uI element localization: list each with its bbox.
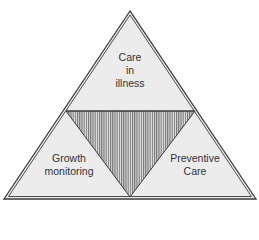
section-growth-monitoring-line-2: monitoring (38, 165, 100, 178)
section-care-in-illness-line-1: Care (104, 51, 156, 64)
section-preventive-care: Preventive Care (162, 152, 228, 178)
section-growth-monitoring-line-1: Growth (38, 152, 100, 165)
section-preventive-care-line-2: Care (162, 165, 228, 178)
section-care-in-illness: Care in illness (104, 51, 156, 90)
section-care-in-illness-line-3: illness (104, 77, 156, 90)
section-growth-monitoring: Growth monitoring (38, 152, 100, 178)
section-preventive-care-line-1: Preventive (162, 152, 228, 165)
section-care-in-illness-line-2: in (104, 64, 156, 77)
